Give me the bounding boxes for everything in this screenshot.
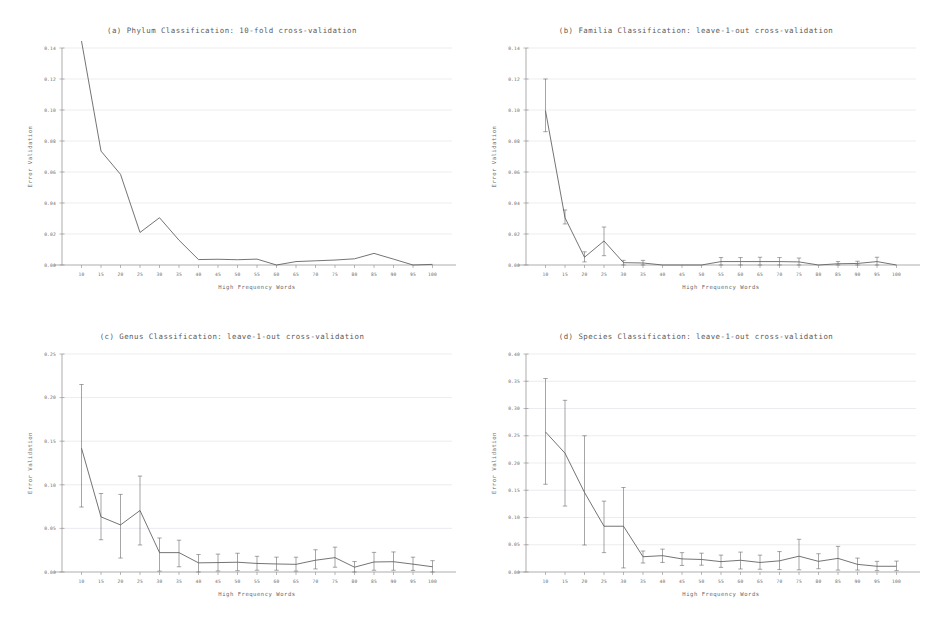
y-tick-label: 0.20 bbox=[508, 461, 520, 466]
chart-svg-panel-d: (d) Species Classification: leave-1-out … bbox=[464, 310, 928, 617]
chart-panel-d: (d) Species Classification: leave-1-out … bbox=[464, 310, 928, 617]
x-tick-label: 90 bbox=[391, 272, 397, 277]
y-tick-label: 0.12 bbox=[508, 77, 520, 82]
x-tick-label: 70 bbox=[777, 272, 783, 277]
x-tick-label: 10 bbox=[543, 272, 549, 277]
x-tick-label: 15 bbox=[562, 579, 568, 584]
error-bars bbox=[79, 385, 434, 572]
y-tick-label: 0.05 bbox=[44, 526, 56, 531]
figure-grid: (a) Phylum Classification: 10-fold cross… bbox=[0, 0, 928, 617]
chart-title: (d) Species Classification: leave-1-out … bbox=[559, 332, 833, 341]
x-tick-label: 30 bbox=[157, 579, 163, 584]
x-tick-label: 60 bbox=[738, 579, 744, 584]
x-tick-label: 20 bbox=[118, 272, 124, 277]
x-tick-label: 100 bbox=[892, 272, 901, 277]
x-tick-label: 55 bbox=[254, 579, 260, 584]
x-tick-label: 95 bbox=[874, 579, 880, 584]
x-tick-label: 100 bbox=[892, 579, 901, 584]
gridlines bbox=[526, 48, 916, 234]
y-tick-label: 0.20 bbox=[44, 395, 56, 400]
x-tick-label: 10 bbox=[543, 579, 549, 584]
x-axis-label: High Frequency Words bbox=[218, 591, 295, 598]
x-tick-label: 90 bbox=[391, 579, 397, 584]
chart-svg-panel-a: (a) Phylum Classification: 10-fold cross… bbox=[0, 0, 464, 310]
y-tick-label: 0.00 bbox=[44, 570, 56, 575]
x-tick-label: 40 bbox=[660, 272, 666, 277]
x-tick-label: 20 bbox=[582, 272, 588, 277]
y-tick-label: 0.15 bbox=[508, 488, 520, 493]
x-tick-label: 65 bbox=[757, 579, 763, 584]
x-tick-label: 80 bbox=[352, 272, 358, 277]
y-tick-label: 0.04 bbox=[508, 201, 520, 206]
x-tick-label: 45 bbox=[215, 272, 221, 277]
x-tick-label: 30 bbox=[621, 272, 627, 277]
y-tick-label: 0.25 bbox=[508, 433, 520, 438]
x-axis-ticks: 101520253035404550556065707580859095100 bbox=[79, 265, 437, 277]
chart-title: (a) Phylum Classification: 10-fold cross… bbox=[107, 26, 357, 35]
x-tick-label: 25 bbox=[601, 579, 607, 584]
x-tick-label: 65 bbox=[293, 272, 299, 277]
y-tick-label: 0.40 bbox=[508, 352, 520, 357]
x-tick-label: 70 bbox=[313, 579, 319, 584]
x-tick-label: 35 bbox=[176, 579, 182, 584]
x-axis-label: High Frequency Words bbox=[682, 284, 759, 291]
x-tick-label: 20 bbox=[582, 579, 588, 584]
x-tick-label: 40 bbox=[196, 579, 202, 584]
chart-panel-c: (c) Genus Classification: leave-1-out cr… bbox=[0, 310, 464, 617]
y-tick-label: 0.14 bbox=[44, 46, 56, 51]
y-axis-label: Error Validation bbox=[491, 126, 497, 188]
x-axis-ticks: 101520253035404550556065707580859095100 bbox=[543, 572, 901, 584]
data-series-line bbox=[82, 41, 433, 265]
x-tick-label: 50 bbox=[235, 579, 241, 584]
x-tick-label: 35 bbox=[640, 579, 646, 584]
x-tick-label: 15 bbox=[98, 579, 104, 584]
x-tick-label: 25 bbox=[137, 579, 143, 584]
x-tick-label: 75 bbox=[332, 272, 338, 277]
x-tick-label: 55 bbox=[718, 579, 724, 584]
x-tick-label: 85 bbox=[371, 579, 377, 584]
x-tick-label: 55 bbox=[254, 272, 260, 277]
x-tick-label: 45 bbox=[679, 272, 685, 277]
y-tick-label: 0.00 bbox=[508, 263, 520, 268]
y-tick-label: 0.35 bbox=[508, 379, 520, 384]
y-tick-label: 0.10 bbox=[508, 108, 520, 113]
y-tick-label: 0.05 bbox=[508, 542, 520, 547]
y-tick-label: 0.12 bbox=[44, 77, 56, 82]
x-tick-label: 75 bbox=[332, 579, 338, 584]
x-tick-label: 35 bbox=[640, 272, 646, 277]
x-tick-label: 80 bbox=[352, 579, 358, 584]
y-tick-label: 0.00 bbox=[508, 570, 520, 575]
x-tick-label: 25 bbox=[601, 272, 607, 277]
x-tick-label: 85 bbox=[835, 272, 841, 277]
x-tick-label: 60 bbox=[274, 272, 280, 277]
y-tick-label: 0.30 bbox=[508, 406, 520, 411]
y-tick-label: 0.15 bbox=[44, 439, 56, 444]
y-tick-label: 0.10 bbox=[44, 483, 56, 488]
x-tick-label: 50 bbox=[699, 579, 705, 584]
x-tick-label: 60 bbox=[274, 579, 280, 584]
y-tick-label: 0.02 bbox=[44, 232, 56, 237]
y-axis-label: Error Validation bbox=[491, 432, 497, 494]
y-axis-ticks: 0.000.020.040.060.080.100.120.14 bbox=[508, 46, 528, 268]
x-tick-label: 90 bbox=[855, 272, 861, 277]
x-tick-label: 50 bbox=[699, 272, 705, 277]
x-tick-label: 20 bbox=[118, 579, 124, 584]
y-tick-label: 0.10 bbox=[44, 108, 56, 113]
x-tick-label: 25 bbox=[137, 272, 143, 277]
chart-svg-panel-b: (b) Familia Classification: leave-1-out … bbox=[464, 0, 928, 310]
x-tick-label: 55 bbox=[718, 272, 724, 277]
x-tick-label: 65 bbox=[757, 272, 763, 277]
x-tick-label: 45 bbox=[679, 579, 685, 584]
x-tick-label: 35 bbox=[176, 272, 182, 277]
y-tick-label: 0.10 bbox=[508, 515, 520, 520]
y-tick-label: 0.14 bbox=[508, 46, 520, 51]
y-axis-ticks: 0.000.050.100.150.200.250.300.350.40 bbox=[508, 352, 528, 575]
x-tick-label: 30 bbox=[621, 579, 627, 584]
x-tick-label: 100 bbox=[428, 579, 437, 584]
x-tick-label: 85 bbox=[835, 579, 841, 584]
y-axis-ticks: 0.000.020.040.060.080.100.120.14 bbox=[44, 46, 64, 268]
chart-title: (c) Genus Classification: leave-1-out cr… bbox=[100, 332, 365, 341]
x-tick-label: 50 bbox=[235, 272, 241, 277]
x-axis-ticks: 101520253035404550556065707580859095100 bbox=[543, 265, 901, 277]
chart-panel-a: (a) Phylum Classification: 10-fold cross… bbox=[0, 0, 464, 310]
